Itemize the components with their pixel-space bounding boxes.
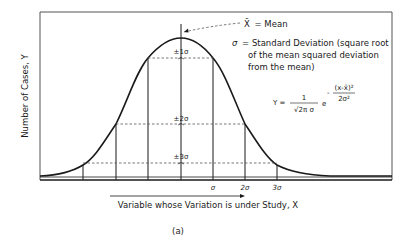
svg-text:Y =: Y =	[272, 99, 286, 107]
normal-formula: Y = 1 √2π σ e - (x-x̄)² 2σ²	[272, 84, 355, 114]
legend-sigma-line2: of the mean squared deviation	[248, 50, 379, 60]
band-dashes	[83, 58, 277, 163]
x-axis-arrow	[110, 194, 245, 198]
tick-label-2sigma: 2σ	[241, 184, 250, 192]
normal-distribution-diagram: ±1σ ±2σ ±3σ σ 2σ 3σ X̄ = Mean σ = Standa…	[0, 0, 412, 240]
svg-text:(x-x̄)²: (x-x̄)²	[334, 84, 353, 92]
svg-text:-: -	[327, 89, 330, 97]
y-axis-label: Number of Cases, Y	[20, 53, 30, 137]
tick-label-sigma: σ	[211, 184, 216, 192]
tick-label-3sigma: 3σ	[273, 184, 282, 192]
band-label-1sigma: ±1σ	[174, 48, 189, 56]
legend-sigma-line3: from the mean)	[248, 62, 315, 72]
svg-text:e: e	[322, 100, 326, 108]
figure-caption: (a)	[172, 226, 184, 236]
legend-mean: X̄ = Mean	[244, 18, 288, 29]
svg-text:√2π σ: √2π σ	[294, 106, 314, 114]
x-axis-label: Variable whose Variation is under Study,…	[118, 200, 298, 210]
legend-sigma-line1: σ = Standard Deviation (square root	[232, 38, 389, 48]
svg-text:1: 1	[302, 94, 306, 102]
band-label-3sigma: ±3σ	[174, 153, 189, 161]
mean-pointer-arrow	[184, 23, 240, 32]
svg-text:2σ²: 2σ²	[338, 95, 350, 103]
band-label-2sigma: ±2σ	[174, 115, 189, 123]
